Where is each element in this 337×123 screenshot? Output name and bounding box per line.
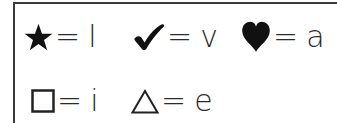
key-letter: v	[200, 22, 218, 52]
square-icon	[31, 89, 55, 113]
key-entry-star: = l	[24, 19, 96, 55]
key-entry-checkmark: = v	[133, 19, 218, 55]
equals-sign: =	[273, 22, 298, 52]
heart-icon	[241, 21, 271, 53]
key-letter: l	[88, 22, 96, 52]
equals-sign: =	[161, 86, 186, 116]
key-entry-heart: = a	[241, 19, 325, 55]
equals-sign: =	[55, 22, 80, 52]
star-icon	[24, 23, 53, 51]
key-letter: i	[90, 86, 98, 116]
key-entry-triangle: = e	[131, 83, 213, 119]
triangle-icon	[131, 89, 159, 114]
key-letter: e	[194, 86, 212, 116]
key-letter: a	[306, 22, 324, 52]
equals-sign: =	[167, 22, 192, 52]
checkmark-icon	[133, 23, 165, 51]
equals-sign: =	[57, 86, 82, 116]
key-entry-square: = i	[31, 83, 98, 119]
